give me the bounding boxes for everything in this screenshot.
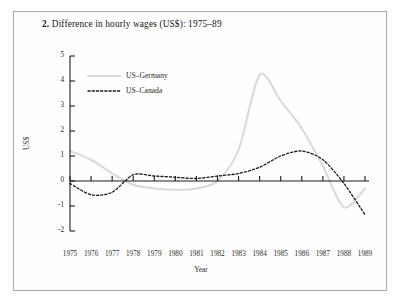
y-tick-label: 1 (48, 151, 64, 159)
series-line-us-germany (70, 74, 365, 208)
y-axis-title: US$ (22, 137, 31, 150)
y-tick-label: 5 (48, 51, 64, 59)
y-tick-label: 4 (48, 76, 64, 84)
y-tick-label: -1 (48, 201, 64, 209)
y-tick-label: -2 (48, 226, 64, 234)
y-tick-label: 0 (48, 176, 64, 184)
legend-label-1: US–Germany (126, 71, 168, 80)
legend-layer (88, 76, 120, 91)
x-tick-label: 1989 (352, 250, 378, 258)
series-layer (70, 74, 365, 215)
y-tick-label: 3 (48, 101, 64, 109)
x-axis-title: Year (0, 265, 402, 274)
axes-layer (70, 56, 369, 231)
legend-label-2: US–Canada (126, 86, 162, 95)
y-tick-label: 2 (48, 126, 64, 134)
